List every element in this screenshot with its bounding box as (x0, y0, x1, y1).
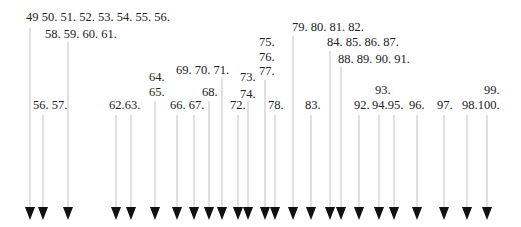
label-77: 77. (259, 65, 275, 78)
label-65: 65. (149, 86, 165, 99)
arrow-11 (233, 115, 243, 220)
arrowhead-icon (336, 207, 346, 220)
arrowhead-icon (63, 207, 73, 220)
arrow-12 (243, 101, 253, 220)
arrow-diagram: 49 50. 51. 52. 53. 54. 55. 56. 58. 59. 6… (0, 0, 521, 227)
label-83: 83. (305, 99, 321, 112)
label-92: 92. (354, 99, 370, 112)
arrowhead-icon (325, 207, 335, 220)
arrowhead-icon (25, 207, 35, 220)
arrow-1 (25, 28, 35, 220)
label-69-71: 69. 70. 71. (176, 64, 229, 77)
label-58-61: 58. 59. 60. 61. (45, 28, 117, 41)
arrowhead-icon (288, 207, 298, 220)
arrowhead-icon (374, 207, 384, 220)
label-98-100: 98.100. (462, 99, 500, 112)
arrow-8 (189, 115, 199, 220)
arrowhead-icon (172, 207, 182, 220)
arrow-18 (336, 67, 346, 220)
arrow-23 (439, 115, 449, 220)
arrowhead-icon (150, 207, 160, 220)
arrow-19 (354, 115, 364, 220)
arrowhead-icon (204, 207, 214, 220)
label-56-57: 56. 57. (33, 99, 67, 112)
arrow-10 (217, 78, 227, 220)
arrow-5 (126, 115, 136, 220)
arrow-22 (412, 115, 422, 220)
arrow-14 (270, 115, 280, 220)
label-84-87: 84. 85. 86. 87. (327, 36, 399, 49)
arrowhead-icon (189, 207, 199, 220)
arrowhead-icon (439, 207, 449, 220)
label-49-56: 49 50. 51. 52. 53. 54. 55. 56. (26, 11, 170, 24)
arrowhead-icon (126, 207, 136, 220)
arrow-4 (111, 115, 121, 220)
arrow-21 (389, 115, 399, 220)
arrow-16 (306, 115, 316, 220)
arrowhead-icon (482, 207, 492, 220)
arrow-7 (172, 115, 182, 220)
label-88-91: 88. 89. 90. 91. (338, 53, 410, 66)
label-62-63: 62.63. (109, 99, 140, 112)
label-76: 76. (259, 51, 275, 64)
arrowhead-icon (260, 207, 270, 220)
arrowhead-icon (243, 207, 253, 220)
arrowhead-icon (38, 207, 48, 220)
arrow-6 (150, 101, 160, 220)
arrowhead-icon (412, 207, 422, 220)
arrow-20 (374, 115, 384, 220)
arrowhead-icon (389, 207, 399, 220)
label-97: 97. (437, 99, 453, 112)
arrowhead-icon (233, 207, 243, 220)
label-66-67: 66. 67. (170, 99, 204, 112)
arrowhead-icon (111, 207, 121, 220)
arrowhead-icon (270, 207, 280, 220)
arrow-17 (325, 51, 335, 220)
label-79-82: 79. 80. 81. 82. (292, 21, 364, 34)
label-93: 93. (375, 84, 391, 97)
label-68: 68. (202, 86, 218, 99)
arrow-25 (482, 115, 492, 220)
arrow-15 (288, 36, 298, 220)
label-94-95: 94.95. (372, 99, 403, 112)
label-64: 64. (149, 71, 165, 84)
label-78: 78. (268, 99, 284, 112)
label-73: 73. (240, 71, 256, 84)
arrow-9 (204, 101, 214, 220)
arrowhead-icon (354, 207, 364, 220)
arrowhead-icon (462, 207, 472, 220)
label-96: 96. (409, 99, 425, 112)
arrow-2 (38, 115, 48, 220)
label-99: 99. (484, 84, 500, 97)
arrowhead-icon (217, 207, 227, 220)
label-74: 74. (240, 88, 256, 101)
label-75: 75. (259, 36, 275, 49)
arrowhead-icon (306, 207, 316, 220)
arrow-3 (63, 42, 73, 220)
arrow-24 (462, 115, 472, 220)
